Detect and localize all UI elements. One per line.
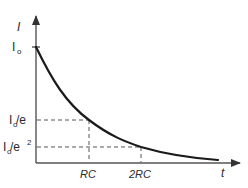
decay-diagram: I I o I o /e I o /e 2 RC 2RC t	[0, 0, 248, 188]
rc-label: RC	[80, 168, 96, 180]
x-axis-label: t	[221, 166, 225, 180]
svg-text:I: I	[3, 140, 6, 154]
ie-label: I o /e	[9, 113, 26, 129]
i0-label: I o	[12, 40, 22, 56]
svg-text:I: I	[9, 113, 12, 127]
svg-text:2: 2	[27, 138, 32, 147]
y-axis-label: I	[17, 20, 21, 34]
svg-text:/e: /e	[16, 113, 26, 127]
svg-text:I: I	[12, 40, 15, 54]
ie2-label: I o /e 2	[3, 138, 32, 156]
decay-curve	[36, 47, 218, 160]
2rc-label: 2RC	[128, 168, 151, 180]
svg-text:o: o	[17, 47, 22, 56]
svg-text:/e: /e	[10, 140, 20, 154]
